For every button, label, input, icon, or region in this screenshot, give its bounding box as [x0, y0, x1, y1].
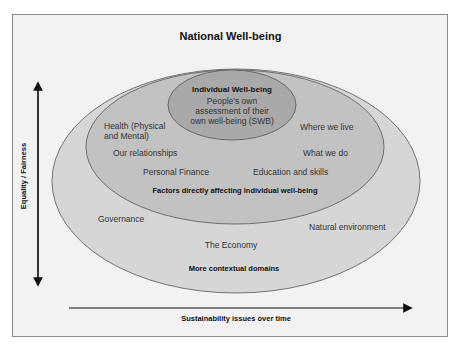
natural-environment-label: Natural environment — [309, 222, 386, 232]
economy-label: The Economy — [205, 240, 257, 250]
diagram-title: National Well-being — [0, 30, 461, 42]
inner-title: Individual Well-being — [192, 85, 272, 95]
outer-caption: More contextual domains — [189, 264, 279, 274]
where-we-live-label: Where we live — [300, 122, 353, 132]
inner-line-2: assessment of their — [195, 106, 269, 116]
diagram-canvas — [0, 0, 461, 355]
health-label-1: Health (Physical — [104, 121, 165, 131]
what-we-do-label: What we do — [303, 148, 348, 158]
education-label: Education and skills — [253, 167, 328, 177]
inner-line-1: People's own — [207, 96, 257, 106]
governance-label: Governance — [98, 214, 144, 224]
inner-line-3: own well-being (SWB) — [190, 116, 274, 126]
equality-axis-label: Equality / Fairness — [19, 143, 28, 209]
finance-label: Personal Finance — [143, 167, 209, 177]
relationships-label: Our relationships — [113, 148, 177, 158]
sustainability-axis-label: Sustainability issues over time — [181, 314, 291, 324]
middle-caption: Factors directly affecting individual we… — [152, 186, 317, 196]
health-label-2: and Mental) — [104, 131, 149, 141]
